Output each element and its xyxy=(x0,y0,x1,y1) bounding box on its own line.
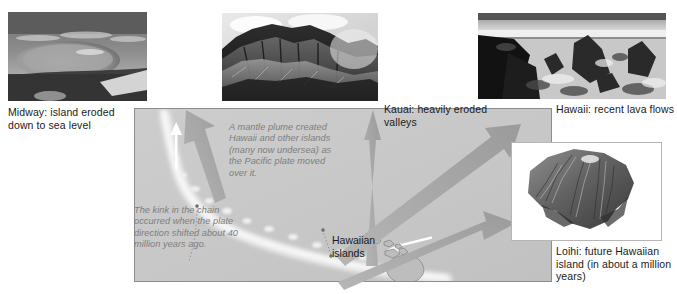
photo-hawaii xyxy=(478,13,666,99)
hawaii-hotspot-figure: Midway: island eroded down to sea level … xyxy=(0,0,677,294)
caption-midway: Midway: island eroded down to sea level xyxy=(8,106,128,131)
caption-loihi: Loihi: future Hawaiian island (in about … xyxy=(556,245,677,283)
caption-hawaii: Hawaii: recent lava flows xyxy=(556,103,676,116)
photo-kauai xyxy=(222,13,378,101)
label-hawaiian-islands: Hawaiian islands xyxy=(332,234,396,259)
annotation-mantle-plume: A mantle plume created Hawaii and other … xyxy=(229,122,345,179)
annotation-chain-kink: The kink in the chain occurred when the … xyxy=(134,205,242,251)
photo-loihi xyxy=(511,142,662,241)
caption-kauai: Kauai: heavily eroded valleys xyxy=(384,103,496,128)
photo-midway xyxy=(8,12,147,101)
